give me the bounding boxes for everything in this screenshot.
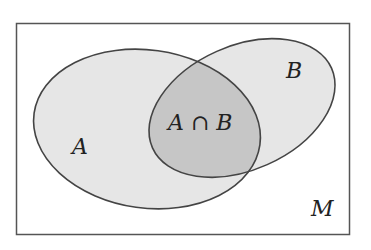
set-a-label: A	[70, 134, 88, 159]
set-b-label: B	[285, 58, 302, 83]
venn-diagram: A B A ∩ B M	[0, 0, 371, 250]
universe-label: M	[310, 196, 334, 221]
intersection-label: A ∩ B	[166, 110, 232, 135]
